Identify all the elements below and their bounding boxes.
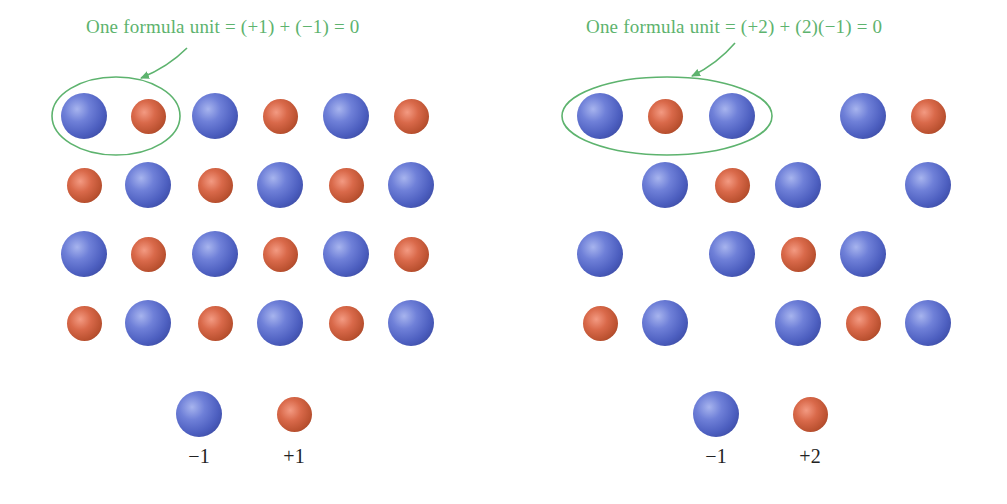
anion-sphere-icon [709,93,755,139]
cation-sphere-icon [67,168,102,203]
anion-sphere-icon [577,93,623,139]
anion-sphere-icon [192,231,238,277]
legend-anion-icon [693,391,739,437]
anion-sphere-icon [775,162,821,208]
cation-sphere-icon [67,306,102,341]
legend-charge-label: +2 [799,445,820,468]
cation-sphere-icon [329,306,364,341]
formula-unit-caption-right: One formula unit = (+2) + (2)(−1) = 0 [586,16,882,38]
anion-sphere-icon [61,231,107,277]
anion-sphere-icon [388,300,434,346]
cation-sphere-icon [131,237,166,272]
anion-sphere-icon [577,231,623,277]
anion-sphere-icon [775,300,821,346]
anion-sphere-icon [192,93,238,139]
anion-sphere-icon [323,231,369,277]
cation-sphere-icon [715,168,750,203]
legend-charge-label: −1 [705,445,726,468]
pointer-arrow-icon [141,48,187,78]
anion-sphere-icon [257,162,303,208]
cation-sphere-icon [394,237,429,272]
cation-sphere-icon [263,99,298,134]
legend-anion-icon [176,391,222,437]
cation-sphere-icon [198,168,233,203]
cation-sphere-icon [781,237,816,272]
cation-sphere-icon [394,99,429,134]
anion-sphere-icon [323,93,369,139]
anion-sphere-icon [840,231,886,277]
anion-sphere-icon [642,162,688,208]
legend-charge-label: +1 [283,445,304,468]
anion-sphere-icon [61,93,107,139]
anion-sphere-icon [709,231,755,277]
legend-cation-icon [277,397,312,432]
anion-sphere-icon [905,162,951,208]
cation-sphere-icon [911,99,946,134]
legend-charge-label: −1 [188,445,209,468]
anion-sphere-icon [125,162,171,208]
cation-sphere-icon [329,168,364,203]
anion-sphere-icon [905,300,951,346]
cation-sphere-icon [263,237,298,272]
cation-sphere-icon [198,306,233,341]
anion-sphere-icon [388,162,434,208]
cation-sphere-icon [648,99,683,134]
legend-cation-icon [793,397,828,432]
cation-sphere-icon [131,99,166,134]
formula-unit-caption-left: One formula unit = (+1) + (−1) = 0 [86,16,360,38]
anion-sphere-icon [257,300,303,346]
anion-sphere-icon [125,300,171,346]
cation-sphere-icon [846,306,881,341]
anion-sphere-icon [642,300,688,346]
anion-sphere-icon [840,93,886,139]
cation-sphere-icon [583,306,618,341]
pointer-arrow-icon [692,43,735,76]
